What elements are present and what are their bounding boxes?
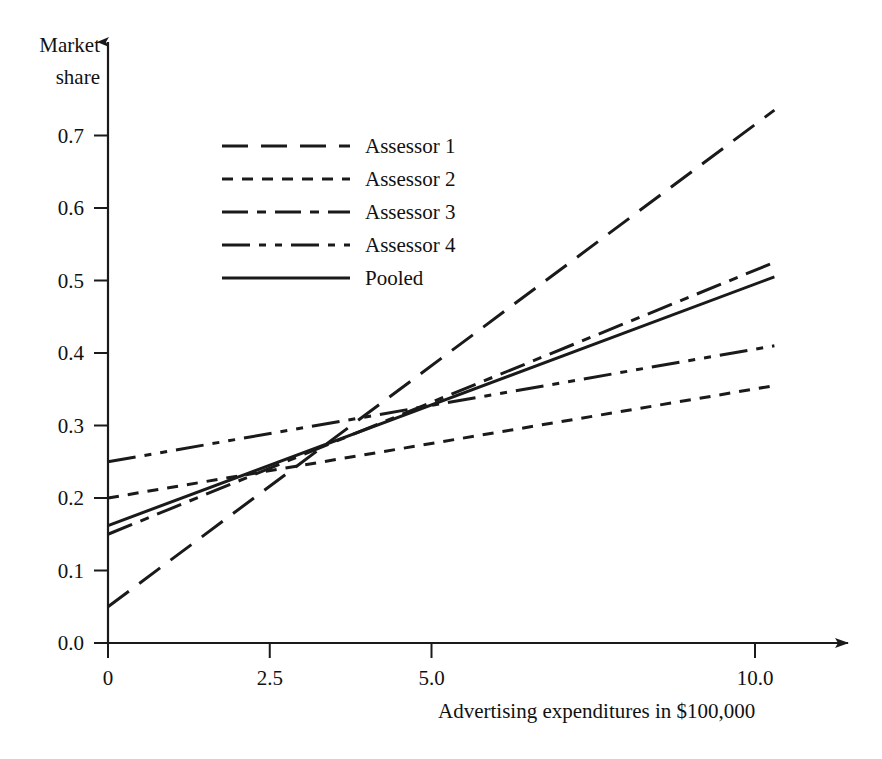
legend-label-assessor-2: Assessor 2	[365, 167, 455, 191]
legend-label-assessor-3: Assessor 3	[365, 200, 455, 224]
y-tick-label: 0.6	[58, 196, 84, 220]
y-axis-label-line2: share	[56, 65, 100, 89]
x-tick-label: 0	[103, 666, 114, 690]
legend-label-assessor-1: Assessor 1	[365, 134, 455, 158]
x-tick-label: 2.5	[257, 666, 283, 690]
legend-label-assessor-4: Assessor 4	[365, 233, 456, 257]
x-axis-ticks: 02.55.010.0	[103, 643, 774, 690]
y-tick-label: 0.7	[58, 124, 84, 148]
x-tick-label: 10.0	[737, 666, 774, 690]
y-tick-label: 0.3	[58, 414, 84, 438]
chart-container: Market share 0.00.10.20.30.40.50.60.7 02…	[0, 0, 882, 759]
series-line-pooled	[108, 277, 774, 526]
y-tick-label: 0.1	[58, 559, 84, 583]
y-tick-label: 0.4	[58, 341, 85, 365]
series-line-assessor-3	[108, 262, 774, 534]
y-axis-ticks: 0.00.10.20.30.40.50.60.7	[58, 124, 108, 656]
y-tick-label: 0.2	[58, 486, 84, 510]
series-line-assessor-4	[108, 346, 774, 462]
legend-label-pooled: Pooled	[365, 266, 424, 290]
x-tick-label: 5.0	[418, 666, 444, 690]
y-tick-label: 0.0	[58, 631, 84, 655]
line-chart: Market share 0.00.10.20.30.40.50.60.7 02…	[0, 0, 882, 759]
legend: Assessor 1Assessor 2Assessor 3Assessor 4…	[222, 134, 456, 290]
x-axis-label: Advertising expenditures in $100,000	[438, 699, 755, 723]
y-tick-label: 0.5	[58, 269, 84, 293]
y-axis-label-line1: Market	[39, 33, 100, 57]
